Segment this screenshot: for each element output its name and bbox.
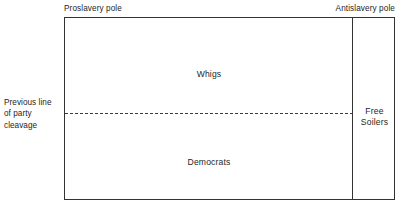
free-soilers-label-line-2: Soilers [353,117,396,128]
cleavage-annotation-line-3: cleavage [4,120,62,131]
previous-party-cleavage-annotation: Previous line of party cleavage [4,97,62,131]
region-label-democrats: Democrats [65,157,353,168]
party-cleavage-dashed-line [65,113,353,114]
spectrum-frame: Whigs Democrats Free Soilers [64,17,395,200]
free-soilers-label-line-1: Free [353,106,396,117]
region-label-free-soilers: Free Soilers [353,106,396,128]
cleavage-annotation-line-2: of party [4,108,62,119]
antislavery-pole-label: Antislavery pole [336,4,395,14]
cleavage-annotation-line-1: Previous line [4,97,62,108]
proslavery-pole-label: Proslavery pole [64,4,122,14]
region-label-whigs: Whigs [65,69,353,80]
